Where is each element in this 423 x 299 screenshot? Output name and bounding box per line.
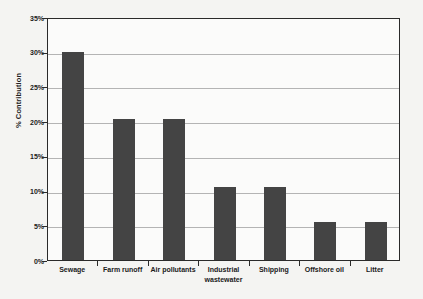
gridline [48, 88, 399, 89]
bar [113, 119, 135, 260]
bar-chart-figure: % Contribution 0%5%10%15%20%25%30%35% Se… [0, 0, 423, 299]
y-axis-tick-label: 5% [10, 223, 44, 230]
bar [214, 187, 236, 260]
x-axis-category-label: Offshore oil [299, 265, 349, 275]
y-axis-tick-label: 15% [10, 153, 44, 160]
x-axis-category-label: Litter [350, 265, 400, 275]
y-axis-tick-label: 10% [10, 188, 44, 195]
bar [163, 119, 185, 260]
y-axis-tick-mark [42, 261, 47, 262]
bar [314, 222, 336, 260]
y-axis-title: % Contribution [14, 41, 23, 161]
x-axis-category-label: Shipping [249, 265, 299, 275]
y-axis-tick-label: 20% [10, 119, 44, 126]
y-axis-tick-label: 25% [10, 84, 44, 91]
plot-area [47, 18, 400, 261]
gridline [48, 123, 399, 124]
y-axis-tick-label: 30% [10, 49, 44, 56]
y-axis-tick-label: 35% [10, 15, 44, 22]
x-axis-category-label: Air pollutants [148, 265, 198, 275]
gridline [48, 54, 399, 55]
x-axis-category-label: Sewage [47, 265, 97, 275]
y-axis-tick-label: 0% [10, 258, 44, 265]
x-axis-category-label: Industrial wastewater [198, 265, 248, 284]
gridline [48, 158, 399, 159]
x-axis-category-label: Farm runoff [97, 265, 147, 275]
bar [264, 187, 286, 260]
bar [62, 52, 84, 260]
bar [365, 222, 387, 260]
